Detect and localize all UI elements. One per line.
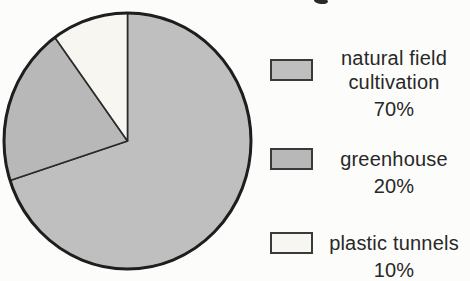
legend-text-block: greenhouse20%: [323, 147, 465, 198]
pie-chart: [0, 0, 260, 275]
pie-legend: natural field cultivation70%greenhouse20…: [270, 46, 465, 281]
legend-swatch-natural-field-cultivation: [270, 59, 313, 81]
legend-text-block: natural field cultivation70%: [323, 46, 465, 121]
cropped-title-remnant-mark: [314, 0, 329, 5]
legend-swatch-greenhouse: [270, 148, 313, 170]
legend-entry-natural-field-cultivation: natural field cultivation70%: [270, 46, 465, 121]
legend-label: plastic tunnels: [323, 231, 465, 255]
legend-percent: 20%: [323, 174, 465, 198]
legend-swatch-plastic-tunnels: [270, 232, 313, 254]
legend-label: natural field cultivation: [323, 46, 465, 94]
legend-label: greenhouse: [323, 147, 465, 171]
legend-percent: 10%: [323, 258, 465, 281]
legend-text-block: plastic tunnels10%: [323, 231, 465, 281]
legend-entry-plastic-tunnels: plastic tunnels10%: [270, 231, 465, 281]
legend-entry-greenhouse: greenhouse20%: [270, 147, 465, 198]
legend-percent: 70%: [323, 97, 465, 121]
